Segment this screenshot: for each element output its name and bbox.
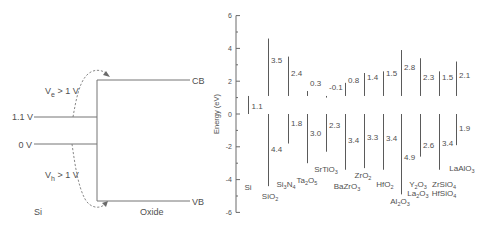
material-zro2: 1.43.3ZrO2 xyxy=(355,73,379,182)
vb-offset-value: 3.4 xyxy=(442,139,454,148)
figure: Ve > 1 V 1.1 V 0 V Vh > 1 V Si Oxide CB … xyxy=(0,0,486,225)
figure-canvas: Ve > 1 V 1.1 V 0 V Vh > 1 V Si Oxide CB … xyxy=(0,0,486,225)
material-label: SiO2 xyxy=(262,192,278,202)
material-label: ZrO2 xyxy=(355,171,372,181)
band-gap-value: 1.1 xyxy=(252,102,264,111)
y-tick-label: -2 xyxy=(226,143,232,150)
y-tick-label: -6 xyxy=(226,209,232,216)
cb-offset-value: 1.5 xyxy=(386,69,398,78)
y-tick-label: 4 xyxy=(228,45,232,52)
vb-offset-value: 3.4 xyxy=(348,136,360,145)
material-si3n4: 2.41.8Si3N4 xyxy=(276,57,302,190)
cb-offset-value: 0.8 xyxy=(348,76,360,85)
material-label: Al2O3 xyxy=(390,197,409,207)
cb-offset-value: 2.3 xyxy=(423,73,435,82)
y-tick-label: -4 xyxy=(226,176,232,183)
y-tick-label: 0 xyxy=(228,111,232,118)
vb-offset-value: 1.8 xyxy=(291,119,303,128)
cb-offset-value: 2.8 xyxy=(404,63,416,72)
cb-offset-value: -0.1 xyxy=(329,83,343,92)
cb-offset-value: 1.5 xyxy=(442,73,454,82)
cb-offset-value: 1.4 xyxy=(367,73,379,82)
cb-offset-value: 0.3 xyxy=(310,79,322,88)
level-low-label: 0 V xyxy=(18,140,32,150)
material-hfo2: 1.53.4HfO2 xyxy=(376,69,397,191)
vb-offset-value: 2.3 xyxy=(329,121,341,130)
material-y2o3-la2o3: 2.32.6Y2O3La2O3 xyxy=(407,58,434,199)
material-label: SrTiO3 xyxy=(314,165,338,175)
material-label: HfSiO4 xyxy=(432,189,456,199)
arrowhead-icon xyxy=(103,71,110,77)
material-label: Si3N4 xyxy=(276,180,295,190)
vb-offset-value: 3.4 xyxy=(386,134,398,143)
material-label: BaZrO3 xyxy=(334,182,361,192)
hole-barrier-label: Vh > 1 V xyxy=(45,170,79,182)
material-label: Si xyxy=(244,183,251,192)
y-tick-label: 2 xyxy=(228,78,232,85)
vb-offset-value: 4.9 xyxy=(404,153,416,162)
vb-offset-value: 3.0 xyxy=(310,129,322,138)
material-sio2: 3.54.4SiO2 xyxy=(262,39,283,202)
vb-offset-value: 3.3 xyxy=(367,133,379,142)
y-axis-label: Energy (eV) xyxy=(212,93,221,134)
electron-barrier-label: Ve > 1 V xyxy=(45,86,79,98)
vb-offset-value: 4.4 xyxy=(271,145,283,154)
material-label: LaAlO3 xyxy=(449,164,474,174)
material-label: La2O3 xyxy=(407,189,428,199)
material-zrsio4-hfsio4: 1.53.4ZrSiO4HfSiO4 xyxy=(432,71,456,199)
cb-offset-value: 2.4 xyxy=(291,69,303,78)
oxide-region-label: Oxide xyxy=(140,207,164,217)
material-laalo3: 2.11.9LaAlO3 xyxy=(449,62,474,174)
cb-offset-value: 3.5 xyxy=(271,56,283,65)
vb-label: VB xyxy=(192,197,204,207)
si-region-label: Si xyxy=(34,207,42,217)
vb-offset-value: 2.6 xyxy=(423,141,435,150)
material-label: HfO2 xyxy=(376,180,393,190)
cb-label: CB xyxy=(192,76,205,86)
material-si: 1.1Si xyxy=(244,96,263,192)
y-tick-label: 6 xyxy=(228,12,232,19)
vb-offset-value: 1.9 xyxy=(459,124,471,133)
cb-offset-value: 2.1 xyxy=(459,71,471,80)
level-high-label: 1.1 V xyxy=(12,112,33,122)
material-label: Ta2O5 xyxy=(297,176,318,186)
band-diagram: Ve > 1 V 1.1 V 0 V Vh > 1 V Si Oxide CB … xyxy=(12,70,205,217)
band-offset-chart: 6420-2-4-6Energy (eV)1.1Si3.54.4SiO22.41… xyxy=(212,12,475,216)
